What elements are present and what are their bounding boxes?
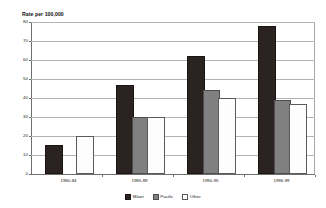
y-axis-tick-label: 20 <box>14 134 28 138</box>
x-axis-tick-label: 1990-95 <box>175 178 246 183</box>
chart-legend: MāoriPacificOther <box>0 194 326 200</box>
y-axis-tick-label: 30 <box>14 115 28 119</box>
bar-group <box>45 22 92 174</box>
x-axis-tick-mark <box>102 175 103 177</box>
x-axis-tick-label: 1980-84 <box>33 178 104 183</box>
y-axis-tick-label: 50 <box>14 77 28 81</box>
plot-area <box>31 22 315 175</box>
y-axis-tick-label: 80 <box>14 20 28 24</box>
bar-groups <box>31 22 315 175</box>
bar-other[interactable] <box>76 136 94 174</box>
legend-label: Māori <box>133 195 144 199</box>
bar-chart: Rate per 100,000 01020304050607080 1980-… <box>0 0 326 208</box>
legend-item-maori[interactable]: Māori <box>125 194 143 200</box>
legend-swatch-other-icon <box>182 194 188 200</box>
bar-other[interactable] <box>289 104 307 174</box>
bar-maori[interactable] <box>45 145 63 174</box>
bar-other[interactable] <box>218 98 236 174</box>
legend-label: Other <box>190 195 201 199</box>
legend-swatch-pacific-icon <box>153 194 159 200</box>
x-axis-tick-label: 1996-99 <box>246 178 317 183</box>
y-axis-tick-label: 10 <box>14 153 28 157</box>
y-axis-tick-label: 40 <box>14 96 28 100</box>
x-axis-tick-mark <box>173 175 174 177</box>
bar-group <box>116 22 163 174</box>
y-axis-tick-label: 0 <box>14 172 28 176</box>
x-axis-tick-label: 1985-89 <box>104 178 175 183</box>
legend-item-other[interactable]: Other <box>182 194 200 200</box>
y-axis-title: Rate per 100,000 <box>22 11 64 17</box>
legend-swatch-maori-icon <box>125 194 131 200</box>
bar-other[interactable] <box>147 117 165 174</box>
legend-item-pacific[interactable]: Pacific <box>153 194 173 200</box>
bar-group <box>187 22 234 174</box>
y-axis-tick-label: 70 <box>14 39 28 43</box>
x-axis-tick-mark <box>244 175 245 177</box>
legend-label: Pacific <box>160 195 173 199</box>
y-axis-tick-label: 60 <box>14 58 28 62</box>
bar-group <box>258 22 305 174</box>
x-axis-tick-mark <box>315 175 316 177</box>
